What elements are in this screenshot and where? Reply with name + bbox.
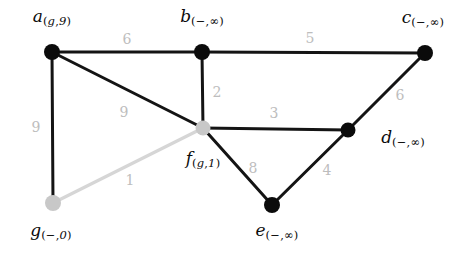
graph-svg <box>0 0 475 256</box>
node-dist-b: ∞ <box>209 14 219 28</box>
node-pred-c: − <box>416 15 426 29</box>
node-label-g: g(−,0) <box>30 222 72 242</box>
edge-weight-b-f: 2 <box>213 85 222 99</box>
graph-node-e[interactable] <box>264 197 280 213</box>
node-name-d: d <box>381 127 392 147</box>
node-subscript-e: (−,∞) <box>266 228 299 242</box>
node-dist-d: ∞ <box>410 135 420 149</box>
node-pred-g: − <box>46 228 56 242</box>
edge-weight-b-c: 5 <box>306 31 315 45</box>
edge-weight-g-f: 1 <box>126 173 135 187</box>
edge-weight-a-b: 6 <box>123 32 132 46</box>
node-pred-d: − <box>397 135 407 149</box>
node-label-d: d(−,∞) <box>381 129 425 149</box>
edge-weight-f-d: 3 <box>270 106 279 120</box>
node-dist-a: 9 <box>59 14 67 28</box>
graph-diagram-canvas: 6599236841 a(g,9)b(−,∞)c(−,∞)d(−,∞)e(−,∞… <box>0 0 475 256</box>
edge-weight-f-e: 8 <box>249 161 258 175</box>
node-dist-g: 0 <box>60 228 68 242</box>
edge-weight-a-f: 9 <box>120 105 129 119</box>
node-name-e: e <box>256 220 266 240</box>
node-dist-f: 1 <box>208 156 216 170</box>
node-label-a: a(g,9) <box>33 8 71 28</box>
node-dist-e: ∞ <box>284 228 294 242</box>
edge-weight-a-g: 9 <box>32 120 41 134</box>
node-name-a: a <box>33 6 43 26</box>
node-name-b: b <box>180 6 191 26</box>
node-name-g: g <box>30 220 41 240</box>
edge-weight-d-e: 4 <box>323 163 332 177</box>
graph-edge-b-f <box>202 52 203 128</box>
graph-edge-b-c <box>202 52 425 53</box>
graph-edge-a-g <box>52 52 53 203</box>
edge-layer <box>52 52 425 205</box>
graph-edge-f-d <box>203 128 348 130</box>
graph-node-d[interactable] <box>341 123 356 138</box>
edge-weight-c-d: 6 <box>396 88 405 102</box>
graph-node-g[interactable] <box>45 195 61 211</box>
graph-edge-d-e <box>272 130 348 205</box>
node-dist-c: ∞ <box>430 15 440 29</box>
node-label-c: c(−,∞) <box>402 9 444 29</box>
node-label-f: f(g,1) <box>186 150 221 170</box>
node-name-c: c <box>402 7 412 27</box>
graph-node-b[interactable] <box>194 44 210 60</box>
graph-node-c[interactable] <box>417 45 433 61</box>
node-label-b: b(−,∞) <box>180 8 224 28</box>
graph-edge-g-f <box>53 128 203 203</box>
graph-node-a[interactable] <box>44 44 60 60</box>
node-subscript-d: (−,∞) <box>392 135 425 149</box>
node-subscript-b: (−,∞) <box>191 14 224 28</box>
node-pred-f: g <box>197 156 205 170</box>
graph-edge-c-d <box>348 53 425 130</box>
node-label-e: e(−,∞) <box>256 222 299 242</box>
node-pred-e: − <box>270 228 280 242</box>
node-subscript-a: (g,9) <box>43 14 71 28</box>
node-pred-b: − <box>196 14 206 28</box>
node-subscript-f: (g,1) <box>192 156 220 170</box>
node-subscript-g: (−,0) <box>41 228 72 242</box>
graph-node-f[interactable] <box>196 121 211 136</box>
node-subscript-c: (−,∞) <box>411 15 444 29</box>
